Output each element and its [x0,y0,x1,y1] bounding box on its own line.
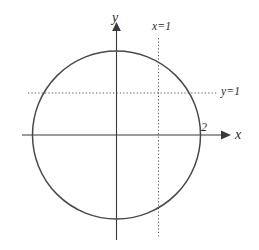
circle-diagram-svg [0,0,259,250]
guide-label-x-equals-1: x=1 [152,21,171,33]
guide-label-y-equals-1: y=1 [221,86,240,98]
y-axis-label: y [112,11,118,25]
figure-canvas: y x x=1 y=1 2 [0,0,259,250]
x-axis-arrowhead-icon [221,131,231,140]
x-intercept-label: 2 [201,121,207,133]
x-axis-label: x [235,128,241,142]
